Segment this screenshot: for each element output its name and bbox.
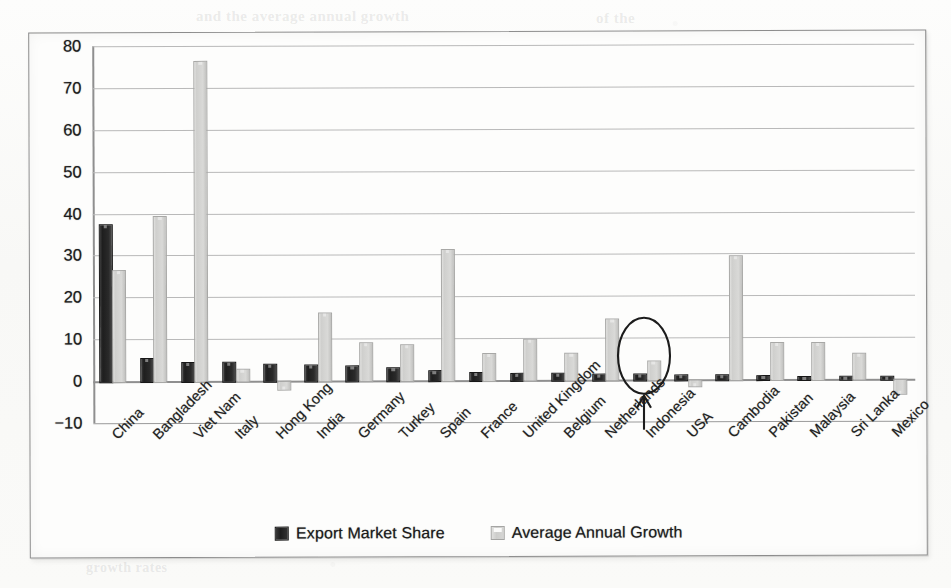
bar-united-kingdom-export-market-share — [510, 373, 524, 382]
bar-spain-export-market-share — [428, 371, 442, 383]
bar-malaysia-average-annual-growth — [811, 342, 825, 381]
bar-group-bangladesh — [133, 46, 175, 423]
y-tick-label-70: 70 — [63, 78, 81, 97]
bar-usa-average-annual-growth — [688, 379, 702, 387]
bar-group-viet-nam — [174, 46, 216, 423]
bar-india-average-annual-growth — [318, 313, 332, 383]
bar-group-turkey — [380, 45, 422, 422]
bar-group-sri-lanka — [832, 44, 874, 421]
bar-viet-nam-average-annual-growth — [194, 61, 209, 383]
plot-area: 80706050403020100−10 — [92, 44, 915, 424]
bar-cambodia-average-annual-growth — [729, 255, 743, 381]
bar-turkey-average-annual-growth — [400, 344, 414, 382]
bar-china-export-market-share — [99, 224, 113, 383]
legend-label-average-annual-growth: Average Annual Growth — [512, 523, 683, 542]
bar-turkey-export-market-share — [387, 367, 401, 382]
bar-group-usa — [668, 44, 710, 421]
bar-group-france — [462, 45, 504, 422]
bar-united-kingdom-average-annual-growth — [523, 338, 537, 382]
bar-group-indonesia — [627, 44, 669, 421]
bar-italy-average-annual-growth — [236, 369, 250, 383]
y-tick-label-10: 10 — [64, 330, 82, 349]
y-tick-label-50: 50 — [63, 162, 81, 181]
bar-pakistan-average-annual-growth — [770, 342, 784, 381]
chart-legend: Export Market Share Average Annual Growt… — [31, 523, 927, 544]
bar-netherlands-average-annual-growth — [606, 319, 620, 382]
dark-square-swatch-icon — [275, 527, 289, 541]
bar-hong-kong-average-annual-growth — [277, 381, 291, 391]
bar-viet-nam-export-market-share — [181, 362, 195, 383]
chart-frame: 80706050403020100−10 ChinaBangladeshViet… — [28, 30, 928, 559]
bar-malaysia-export-market-share — [798, 376, 812, 381]
bar-belgium-export-market-share — [551, 373, 565, 382]
bar-series-group — [92, 44, 915, 424]
y-tick-label-20: 20 — [64, 288, 82, 307]
bar-indonesia-export-market-share — [633, 373, 647, 381]
bar-spain-average-annual-growth — [441, 249, 455, 382]
y-tick-label-40: 40 — [63, 204, 81, 223]
bar-mexico-export-market-share — [880, 376, 894, 381]
bar-france-average-annual-growth — [482, 353, 496, 382]
y-tick-label-80: 80 — [63, 36, 81, 55]
bar-group-united-kingdom — [503, 45, 545, 422]
bar-germany-export-market-share — [346, 365, 360, 382]
bar-group-italy — [216, 46, 258, 423]
bar-pakistan-export-market-share — [757, 375, 771, 381]
y-tick-label-60: 60 — [63, 120, 81, 139]
light-square-swatch-icon — [491, 526, 505, 540]
bar-sri-lanka-average-annual-growth — [852, 353, 866, 381]
bar-cambodia-export-market-share — [716, 374, 730, 381]
bar-group-spain — [421, 45, 463, 422]
y-tick-label-30: 30 — [63, 246, 81, 265]
bar-group-malaysia — [791, 44, 833, 421]
bar-italy-export-market-share — [222, 362, 236, 383]
bar-india-export-market-share — [305, 365, 319, 383]
bar-bangladesh-export-market-share — [140, 358, 154, 383]
bar-group-cambodia — [709, 44, 751, 421]
bar-group-pakistan — [750, 44, 792, 421]
bar-sri-lanka-export-market-share — [839, 376, 853, 381]
bar-group-mexico — [873, 44, 915, 421]
bar-usa-export-market-share — [674, 374, 688, 381]
bar-bangladesh-average-annual-growth — [153, 216, 168, 383]
bar-group-hong-kong — [257, 46, 299, 423]
legend-label-export-market-share: Export Market Share — [296, 524, 445, 542]
y-tick-label--10: −10 — [54, 413, 82, 432]
bar-hong-kong-export-market-share — [263, 364, 277, 383]
legend-item-average-annual-growth: Average Annual Growth — [491, 523, 683, 542]
legend-item-export-market-share: Export Market Share — [275, 524, 445, 543]
bar-group-india — [298, 45, 340, 422]
y-tick-label-0: 0 — [73, 371, 82, 390]
bar-group-germany — [339, 45, 381, 422]
bar-china-average-annual-growth — [112, 270, 126, 383]
bar-france-export-market-share — [469, 372, 483, 382]
bar-group-china — [92, 46, 134, 423]
bar-group-belgium — [544, 45, 586, 422]
bar-germany-average-annual-growth — [359, 342, 373, 383]
